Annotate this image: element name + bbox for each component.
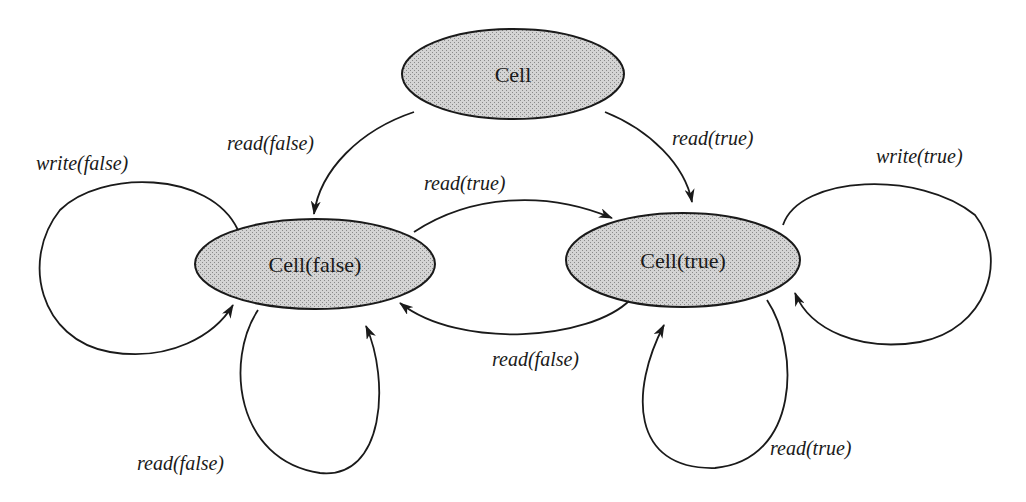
edge-cell-false-to-cell-true — [414, 200, 612, 232]
node-cell-false: Cell(false) — [195, 219, 435, 309]
node-cell: Cell — [402, 29, 624, 119]
node-cell-true-label: Cell(true) — [640, 248, 726, 273]
label-read-true-loop: read(true) — [770, 437, 852, 460]
label-write-false-loop: write(false) — [36, 152, 129, 175]
node-cell-true: Cell(true) — [566, 213, 800, 307]
label-read-false-cross: read(false) — [492, 348, 579, 371]
edge-labels: read(false) read(true) read(true) read(f… — [36, 127, 963, 475]
edge-cell-to-cell-false — [314, 112, 414, 214]
edge-loop-read-false — [241, 310, 380, 473]
node-cell-label: Cell — [495, 62, 532, 87]
label-read-false-loop: read(false) — [137, 452, 224, 475]
edge-cell-true-to-cell-false — [400, 300, 630, 334]
state-diagram: Cell Cell(false) Cell(true) read(false) … — [0, 0, 1026, 502]
node-cell-false-label: Cell(false) — [269, 252, 362, 277]
edges — [40, 112, 991, 473]
edge-cell-to-cell-true — [605, 112, 692, 202]
label-write-true-loop: write(true) — [876, 145, 963, 168]
label-read-false-initial: read(false) — [227, 132, 314, 155]
label-read-true-cross: read(true) — [424, 172, 506, 195]
edge-loop-read-true — [643, 300, 788, 468]
label-read-true-initial: read(true) — [672, 127, 754, 150]
edge-loop-write-true — [783, 184, 991, 344]
